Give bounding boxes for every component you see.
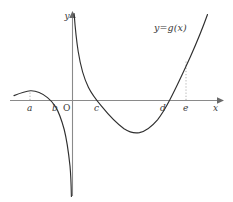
tick-label-d: d [160, 104, 166, 113]
x-axis-label: x [213, 104, 218, 113]
curve-right-branch [74, 14, 207, 133]
tick-label-a: a [27, 104, 32, 113]
graph-canvas [0, 0, 233, 202]
tick-label-e: e [183, 104, 188, 113]
origin-label: O [63, 104, 70, 113]
graph-figure: a b O c d e x y y=g(x) [0, 0, 233, 202]
tick-label-b: b [52, 104, 58, 113]
function-label: y=g(x) [154, 23, 187, 33]
tick-label-c: c [94, 104, 99, 113]
y-axis-label: y [65, 12, 70, 21]
